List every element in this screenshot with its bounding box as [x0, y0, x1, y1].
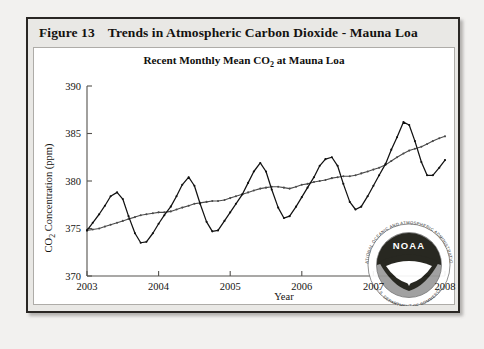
data-point: [92, 222, 94, 224]
data-point: [259, 162, 261, 164]
data-point: [444, 135, 446, 137]
data-point: [396, 156, 398, 158]
data-point: [438, 137, 440, 139]
data-point: [163, 214, 165, 216]
data-point: [122, 220, 124, 222]
data-point: [152, 232, 154, 234]
data-point: [193, 185, 195, 187]
y-tick-label: 370: [65, 271, 81, 282]
data-point: [206, 201, 208, 203]
data-point: [145, 213, 147, 215]
data-point: [378, 174, 380, 176]
data-point: [235, 195, 237, 197]
data-point: [259, 188, 261, 190]
data-point: [378, 167, 380, 169]
data-point: [342, 175, 344, 177]
data-point: [181, 207, 183, 209]
data-point: [342, 183, 344, 185]
figure-header: Figure 13 Trends in Atmospheric Carbon D…: [28, 19, 458, 46]
data-point: [127, 215, 129, 217]
data-point: [385, 163, 387, 165]
data-point: [170, 210, 172, 212]
data-point: [211, 200, 213, 202]
data-point: [247, 182, 249, 184]
data-point: [426, 174, 428, 176]
data-point: [313, 181, 315, 183]
data-point: [110, 224, 112, 226]
y-tick-label: 390: [65, 81, 81, 92]
data-point: [241, 193, 243, 195]
data-point: [134, 216, 136, 218]
data-point: [301, 184, 303, 186]
y-axis-ticks: [87, 86, 92, 276]
figure-box: Figure 13 Trends in Atmospheric Carbon D…: [26, 17, 460, 313]
data-point: [432, 140, 434, 142]
data-point: [193, 203, 195, 205]
data-point: [426, 143, 428, 145]
data-point: [349, 201, 351, 203]
noaa-logo: NOAA NATIONAL OCEANIC AND ATMOSPHERIC AD…: [34, 48, 454, 306]
data-point: [390, 160, 392, 162]
data-point: [175, 195, 177, 197]
data-point: [175, 208, 177, 210]
data-point: [277, 207, 279, 209]
x-tick-label: 2006: [291, 281, 312, 292]
data-point: [283, 217, 285, 219]
data-point: [319, 165, 321, 167]
data-point: [319, 180, 321, 182]
data-point: [271, 189, 273, 191]
data-point: [390, 149, 392, 151]
data-point: [306, 187, 308, 189]
data-point: [414, 140, 416, 142]
data-point: [289, 188, 291, 190]
data-point: [265, 170, 267, 172]
data-point: [360, 206, 362, 208]
data-point: [253, 189, 255, 191]
data-point: [217, 229, 219, 231]
data-point: [306, 183, 308, 185]
data-point: [217, 200, 219, 202]
data-point: [324, 158, 326, 160]
data-point: [324, 179, 326, 181]
data-point: [438, 167, 440, 169]
data-point: [349, 175, 351, 177]
data-point: [367, 195, 369, 197]
data-point: [116, 222, 118, 224]
data-point: [265, 187, 267, 189]
data-point: [92, 228, 94, 230]
data-point: [337, 176, 339, 178]
noaa-wordmark: NOAA: [393, 240, 425, 251]
data-point: [402, 152, 404, 154]
x-tick-label: 2005: [220, 281, 241, 292]
data-point: [98, 227, 100, 229]
data-point: [337, 165, 339, 167]
data-point: [283, 187, 285, 189]
data-point: [229, 197, 231, 199]
data-point: [110, 195, 112, 197]
data-point: [188, 176, 190, 178]
data-point: [295, 206, 297, 208]
data-point: [253, 170, 255, 172]
data-point: [86, 229, 88, 231]
data-point: [396, 136, 398, 138]
data-point: [104, 226, 106, 228]
co2-line-chart: NOAA NATIONAL OCEANIC AND ATMOSPHERIC AD…: [34, 48, 456, 306]
data-point: [408, 124, 410, 126]
data-point: [247, 191, 249, 193]
data-point: [420, 161, 422, 163]
data-point: [181, 184, 183, 186]
x-axis-title: Year: [274, 291, 294, 302]
x-tick-label: 2004: [148, 281, 170, 292]
data-point: [223, 220, 225, 222]
data-point: [145, 241, 147, 243]
x-tick-label: 2008: [435, 281, 456, 292]
data-point: [408, 150, 410, 152]
data-point: [402, 121, 404, 123]
data-point: [295, 186, 297, 188]
data-point: [277, 186, 279, 188]
data-point: [331, 177, 333, 179]
y-axis-tick-labels: 370375380385390: [65, 81, 81, 282]
data-point: [444, 159, 446, 161]
data-point: [170, 206, 172, 208]
data-point: [432, 174, 434, 176]
